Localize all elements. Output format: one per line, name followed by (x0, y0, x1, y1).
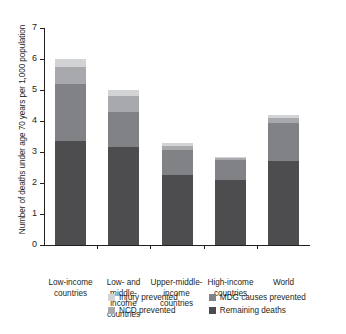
bar-segment[interactable] (268, 115, 299, 118)
bar-group[interactable] (268, 115, 299, 245)
bar-segment[interactable] (162, 143, 193, 146)
bar-segment[interactable] (162, 175, 193, 245)
y-tick-label: 6 (23, 54, 37, 63)
bar-segment[interactable] (268, 118, 299, 123)
y-tick-label: 3 (23, 147, 37, 156)
y-tick-label: 0 (23, 240, 37, 249)
x-axis-category-label: World (257, 278, 310, 289)
bar-segment[interactable] (55, 59, 86, 67)
category-label-line: Low-income (44, 278, 97, 289)
y-tick-label: 2 (23, 178, 37, 187)
x-axis-line (44, 245, 310, 246)
bar-group[interactable] (108, 90, 139, 245)
x-tick-mark (150, 245, 151, 249)
legend-item[interactable]: MDG causes prevented (209, 293, 328, 302)
legend-swatch-icon (209, 294, 216, 301)
legend-label: Remaining deaths (220, 306, 286, 315)
bar-segment[interactable] (162, 146, 193, 151)
y-tick-mark (40, 90, 44, 91)
bar-segment[interactable] (108, 112, 139, 148)
bar-segment[interactable] (215, 180, 246, 245)
bar-segment[interactable] (55, 84, 86, 141)
legend-label: NCD prevented (119, 306, 175, 315)
category-label-line: World (257, 278, 310, 289)
chart-legend: Injury preventedMDG causes preventedNCD … (108, 291, 328, 317)
y-axis-line (44, 28, 45, 246)
legend-swatch-icon (108, 294, 115, 301)
legend-swatch-icon (209, 307, 216, 314)
bar-group[interactable] (162, 143, 193, 245)
bar-segment[interactable] (268, 123, 299, 162)
plot-area: 01234567 Low-incomecountriesLow- andmidd… (44, 28, 310, 245)
bar-group[interactable] (215, 157, 246, 245)
x-tick-mark (97, 245, 98, 249)
y-tick-mark (40, 245, 44, 246)
chart-figure: Number of deaths under age 70 years per … (0, 0, 346, 334)
y-tick-mark (40, 121, 44, 122)
y-tick-label: 1 (23, 209, 37, 218)
y-tick-mark (40, 59, 44, 60)
bar-segment[interactable] (108, 147, 139, 245)
y-tick-label: 5 (23, 85, 37, 94)
y-tick-label: 4 (23, 116, 37, 125)
y-tick-label: 7 (23, 23, 37, 32)
category-label-line: High-income (204, 278, 257, 289)
legend-item[interactable]: Injury prevented (108, 293, 200, 302)
x-tick-mark (257, 245, 258, 249)
bar-segment[interactable] (55, 141, 86, 245)
x-tick-mark (204, 245, 205, 249)
bar-segment[interactable] (55, 67, 86, 84)
x-axis-category-label: Low-incomecountries (44, 278, 97, 299)
y-tick-mark (40, 28, 44, 29)
y-tick-mark (40, 152, 44, 153)
legend-item[interactable]: NCD prevented (108, 306, 200, 315)
legend-item[interactable]: Remaining deaths (209, 306, 328, 315)
category-label-line: Low- and (97, 278, 150, 289)
legend-label: MDG causes prevented (220, 293, 306, 302)
category-label-line: countries (44, 289, 97, 300)
bar-segment[interactable] (108, 90, 139, 96)
legend-label: Injury prevented (119, 293, 178, 302)
bar-segment[interactable] (215, 157, 246, 159)
category-label-line: Upper-middle- (150, 278, 203, 289)
bar-segment[interactable] (215, 160, 246, 180)
bar-segment[interactable] (162, 150, 193, 175)
legend-swatch-icon (108, 307, 115, 314)
bar-segment[interactable] (108, 96, 139, 112)
y-tick-mark (40, 183, 44, 184)
bar-group[interactable] (55, 59, 86, 245)
y-tick-mark (40, 214, 44, 215)
bar-segment[interactable] (215, 158, 246, 160)
bar-segment[interactable] (268, 161, 299, 245)
